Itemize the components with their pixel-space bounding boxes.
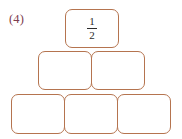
pyramid-cell-bot-2[interactable] <box>64 94 118 134</box>
pyramid-cell-top-1[interactable]: 1 2 <box>65 9 119 48</box>
pyramid-cell-bot-1[interactable] <box>11 94 65 134</box>
fraction-denominator: 2 <box>87 29 97 41</box>
problem-number-label: (4) <box>9 13 24 26</box>
pyramid-cell-mid-1[interactable] <box>38 51 92 90</box>
pyramid-cell-bot-3[interactable] <box>117 94 171 134</box>
fraction-one-half: 1 2 <box>87 16 97 41</box>
pyramid-cell-mid-2[interactable] <box>91 51 145 90</box>
figure-canvas: (4) 1 2 <box>0 0 182 139</box>
fraction-numerator: 1 <box>87 16 97 29</box>
